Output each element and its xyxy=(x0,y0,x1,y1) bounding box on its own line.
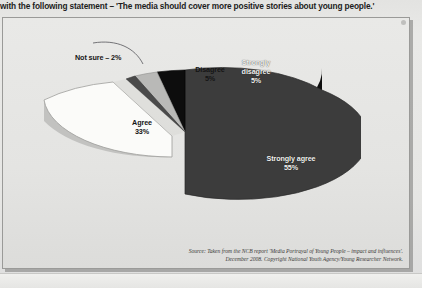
pie-label-strongly-agree-name: Strongly agree xyxy=(267,154,316,163)
page-bottom-edge xyxy=(0,273,422,288)
slice-strongly-agree xyxy=(185,67,361,199)
pie-label-strongly-disagree-value: 5% xyxy=(251,76,261,85)
pie-label-agree-name: Agree xyxy=(132,118,152,127)
chart-panel: Not sure – 2% Disagree 5% Strongly disag… xyxy=(2,17,410,269)
page-heading: with the following statement – 'The medi… xyxy=(0,1,404,11)
pie-label-disagree-value: 5% xyxy=(205,74,215,83)
source-line-2: December 2008. Copyright National Youth … xyxy=(189,255,403,264)
pie-label-strongly-disagree: Strongly disagree 5% xyxy=(231,59,281,85)
pie-label-agree-value: 33% xyxy=(135,127,149,136)
source-line-1: Source: Taken from the NCB report 'Media… xyxy=(189,247,403,256)
pie-label-disagree-name: Disagree xyxy=(195,65,225,74)
pie-label-disagree: Disagree 5% xyxy=(188,66,232,84)
pie-label-not-sure: Not sure – 2% xyxy=(75,54,121,63)
scan-artifact-dot xyxy=(401,20,406,25)
pie-label-strongly-disagree-name-1: Strongly xyxy=(242,58,270,67)
pie-label-strongly-agree-value: 55% xyxy=(284,163,298,172)
source-caption: Source: Taken from the NCB report 'Media… xyxy=(189,247,403,264)
pie-chart: Not sure – 2% Disagree 5% Strongly disag… xyxy=(31,24,361,239)
pie-label-agree: Agree 33% xyxy=(119,119,165,137)
pie-label-strongly-agree: Strongly agree 55% xyxy=(253,155,329,173)
pie-label-strongly-disagree-name-2: disagree xyxy=(242,67,271,76)
scanned-page: with the following statement – 'The medi… xyxy=(0,0,422,288)
